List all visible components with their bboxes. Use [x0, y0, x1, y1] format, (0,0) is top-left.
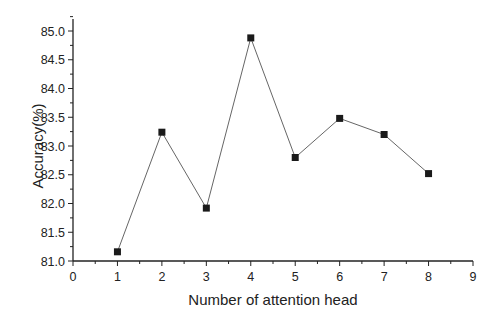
- y-tick-label: 82.0: [41, 197, 65, 211]
- y-tick-label: 83.5: [41, 111, 65, 125]
- accuracy-line-chart: Accuracy(%) Number of attention head 81.…: [0, 0, 496, 320]
- x-tick-label: 6: [336, 270, 343, 284]
- y-tick-label: 81.0: [41, 255, 65, 269]
- data-series: [114, 34, 432, 255]
- data-point-marker: [425, 170, 432, 177]
- data-point-marker: [381, 131, 388, 138]
- data-point-marker: [292, 154, 299, 161]
- data-point-marker: [158, 129, 165, 136]
- x-tick-label: 5: [292, 270, 299, 284]
- x-tick-label: 9: [470, 270, 477, 284]
- data-point-marker: [203, 205, 210, 212]
- data-point-marker: [247, 34, 254, 41]
- y-tick-label: 84.0: [41, 82, 65, 96]
- x-axis-label: Number of attention head: [188, 291, 357, 308]
- series-line: [117, 38, 428, 252]
- y-tick-label: 85.0: [41, 25, 65, 39]
- x-tick-label: 1: [114, 270, 121, 284]
- x-tick-label: 7: [381, 270, 388, 284]
- data-point-marker: [336, 115, 343, 122]
- x-tick-label: 8: [425, 270, 432, 284]
- x-tick-label: 4: [247, 270, 254, 284]
- y-tick-label: 82.5: [41, 168, 65, 182]
- data-point-marker: [114, 248, 121, 255]
- x-tick-label: 2: [158, 270, 165, 284]
- y-tick-label: 81.5: [41, 226, 65, 240]
- axes: 81.081.582.082.583.083.584.084.585.00123…: [41, 17, 477, 284]
- y-tick-label: 83.0: [41, 140, 65, 154]
- x-tick-label: 3: [203, 270, 210, 284]
- x-tick-label: 0: [70, 270, 77, 284]
- y-tick-label: 84.5: [41, 53, 65, 67]
